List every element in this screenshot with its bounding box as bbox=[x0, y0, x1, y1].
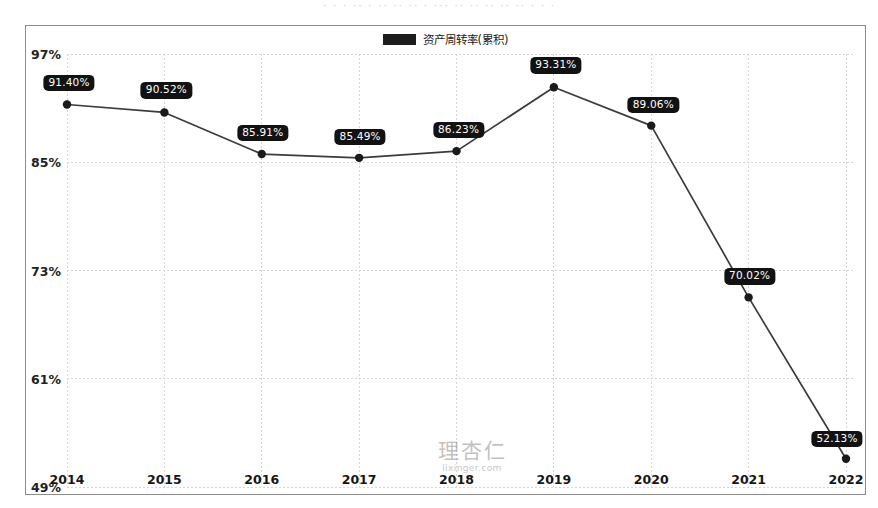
plot-area: 97%85%73%61%49%2014201520162017201820192… bbox=[26, 26, 867, 496]
x-axis-tick-label: 2019 bbox=[536, 472, 571, 487]
x-axis-tick-label: 2014 bbox=[50, 472, 85, 487]
y-axis-tick-label: 97% bbox=[31, 47, 61, 62]
data-point-value-badge: 85.49% bbox=[335, 129, 386, 145]
x-axis-tick-label: 2021 bbox=[731, 472, 766, 487]
data-point-value-badge: 90.52% bbox=[141, 82, 192, 98]
y-axis-tick-label: 61% bbox=[31, 371, 61, 386]
data-point-value-badge: 70.02% bbox=[724, 268, 775, 284]
cropped-header-text: · · · ·· · ·· ·· ·· · ··· ·· ·· ·· ·· ··… bbox=[0, 0, 878, 14]
chart-container: 资产周转率(累积) 97%85%73%61%49%201420152016201… bbox=[25, 25, 866, 495]
y-axis-tick-label: 73% bbox=[31, 263, 61, 278]
y-axis-tick-label: 85% bbox=[31, 155, 61, 170]
data-point-value-badge: 93.31% bbox=[530, 57, 581, 73]
x-axis-tick-label: 2018 bbox=[439, 472, 474, 487]
data-point-value-badge: 85.91% bbox=[237, 125, 288, 141]
x-axis-tick-label: 2015 bbox=[147, 472, 182, 487]
x-axis-tick-label: 2020 bbox=[634, 472, 669, 487]
x-axis-tick-label: 2022 bbox=[829, 472, 864, 487]
data-point-value-badge: 52.13% bbox=[811, 431, 862, 447]
x-axis-tick-label: 2016 bbox=[244, 472, 279, 487]
x-axis-tick-label: 2017 bbox=[342, 472, 377, 487]
data-point-value-badge: 91.40% bbox=[43, 74, 94, 90]
data-point-value-badge: 86.23% bbox=[433, 122, 484, 138]
data-point-value-badge: 89.06% bbox=[628, 97, 679, 113]
